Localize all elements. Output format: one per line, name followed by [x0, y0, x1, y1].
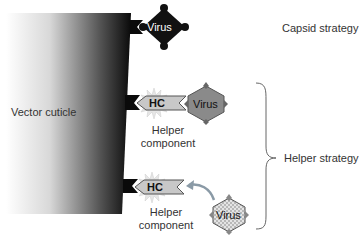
virus-label-free: Virus [216, 209, 241, 222]
helper-component-label-1: Helper component [138, 124, 198, 150]
virus-label-capsid: Virus [147, 21, 172, 34]
helper-component-line1: Helper [136, 206, 196, 219]
capsid-strategy-label: Capsid strategy [282, 22, 358, 35]
helper-component-line1: Helper [138, 124, 198, 137]
helper-component-label-2: Helper component [136, 206, 196, 232]
helper-component-line2: component [136, 219, 196, 232]
hc-label-approach: HC [147, 181, 163, 194]
virus-label-helper: Virus [193, 98, 218, 111]
helper-strategy-label: Helper strategy [284, 152, 359, 165]
helper-strategy-brace [256, 83, 276, 229]
vector-cuticle-label: Vector cuticle [11, 106, 76, 119]
hc-label-bound: HC [149, 97, 165, 110]
helper-component-line2: component [138, 137, 198, 150]
